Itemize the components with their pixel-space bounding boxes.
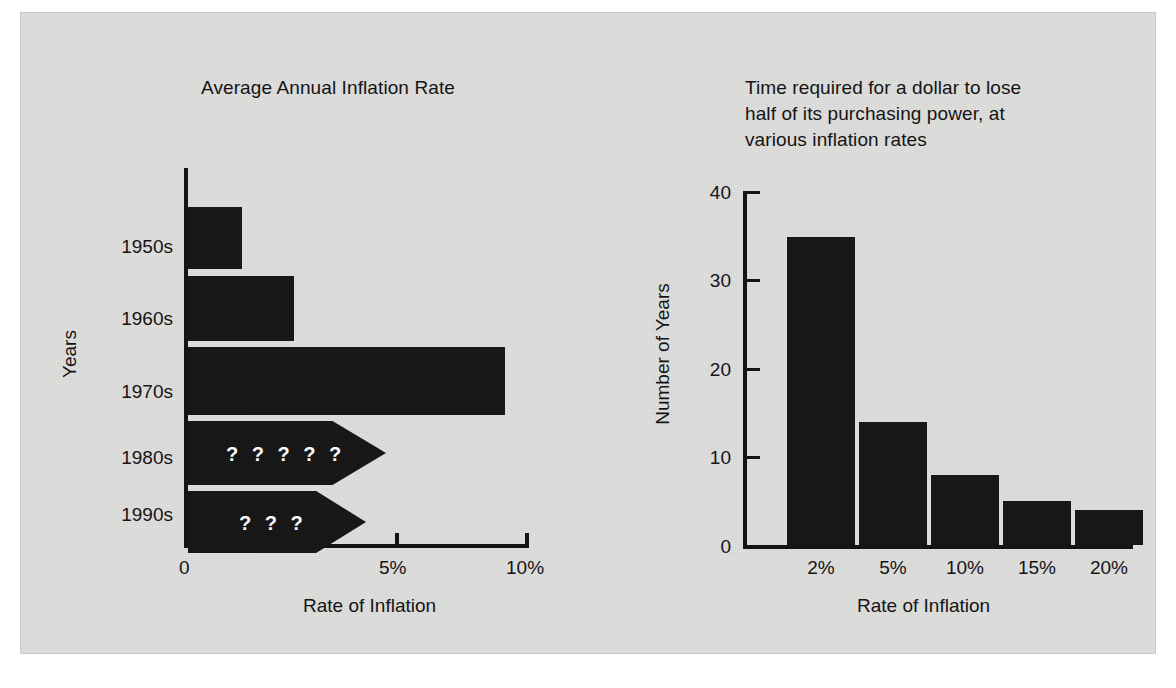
left-chart-x-tick-0 — [184, 533, 188, 548]
right-chart-y-tick-20 — [743, 368, 760, 371]
right-chart-x-axis-title: Rate of Inflation — [857, 596, 990, 615]
right-chart-ylabel-20: 20 — [671, 360, 731, 379]
right-chart-xlabel-15pct: 15% — [1003, 558, 1071, 577]
right-chart-ylabel-10: 10 — [671, 448, 731, 467]
left-chart-bar-1960s — [188, 276, 294, 341]
right-chart-y-axis-title: Number of Years — [652, 264, 674, 444]
left-chart-xtick-label-0: 0 — [179, 558, 190, 577]
right-chart-bar-2pct — [787, 237, 855, 545]
left-chart-ylabel-1980s: 1980s — [83, 448, 173, 467]
left-chart-x-tick-5 — [395, 533, 399, 548]
right-chart-ylabel-40: 40 — [671, 183, 731, 202]
left-chart-xtick-label-5: 5% — [379, 558, 406, 577]
right-chart-y-tick-30 — [743, 279, 760, 282]
right-chart-x-axis-line — [743, 545, 1133, 549]
left-chart-y-axis-title: Years — [59, 294, 81, 414]
right-chart-bar-20pct — [1075, 510, 1143, 545]
right-chart-bar-5pct — [859, 422, 927, 545]
chart-time-to-lose-half-purchasing-power: Time required for a dollar to lose half … — [621, 13, 1176, 655]
figure-root: Average Annual Inflation Rate Years 1950… — [0, 0, 1176, 688]
right-chart-y-tick-10 — [743, 456, 760, 459]
right-chart-bar-15pct — [1003, 501, 1071, 545]
right-chart-bar-10pct — [931, 475, 999, 545]
left-chart-xtick-label-10: 10% — [506, 558, 544, 577]
left-chart-ylabel-1970s: 1970s — [83, 382, 173, 401]
left-chart-title: Average Annual Inflation Rate — [201, 75, 455, 101]
left-chart-bar-1970s — [188, 347, 505, 415]
right-chart-ylabel-0: 0 — [671, 537, 731, 556]
left-chart-x-axis-title: Rate of Inflation — [303, 596, 436, 615]
right-chart-ylabel-30: 30 — [671, 271, 731, 290]
right-chart-xlabel-20pct: 20% — [1075, 558, 1143, 577]
right-chart-title: Time required for a dollar to lose half … — [745, 75, 1021, 153]
right-chart-xlabel-2pct: 2% — [787, 558, 855, 577]
right-chart-y-tick-0 — [743, 545, 760, 548]
chart-average-annual-inflation-rate: Average Annual Inflation Rate Years 1950… — [21, 13, 621, 655]
left-chart-bar-1950s — [188, 207, 242, 269]
left-chart-bar-1990s-annotation: ? ? ? — [239, 513, 307, 533]
figure-plate: Average Annual Inflation Rate Years 1950… — [20, 12, 1156, 654]
right-chart-y-tick-40 — [743, 191, 760, 194]
left-chart-x-tick-10 — [525, 533, 529, 548]
left-chart-bar-1980s-annotation: ? ? ? ? ? — [226, 444, 345, 464]
right-chart-xlabel-10pct: 10% — [931, 558, 999, 577]
left-chart-ylabel-1950s: 1950s — [83, 237, 173, 256]
left-chart-ylabel-1960s: 1960s — [83, 309, 173, 328]
left-chart-ylabel-1990s: 1990s — [83, 505, 173, 524]
right-chart-xlabel-5pct: 5% — [859, 558, 927, 577]
